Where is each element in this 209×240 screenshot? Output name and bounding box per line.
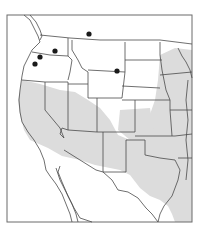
range-map	[0, 0, 209, 240]
occurrence-points	[32, 31, 119, 73]
occurrence-dot-wyoming	[114, 68, 119, 73]
occurrence-dot-oregon	[32, 61, 37, 66]
occurrence-dot-washington-west	[37, 54, 42, 59]
occurrence-dot-washington-east	[52, 48, 57, 53]
occurrence-dot-montana	[86, 31, 91, 36]
